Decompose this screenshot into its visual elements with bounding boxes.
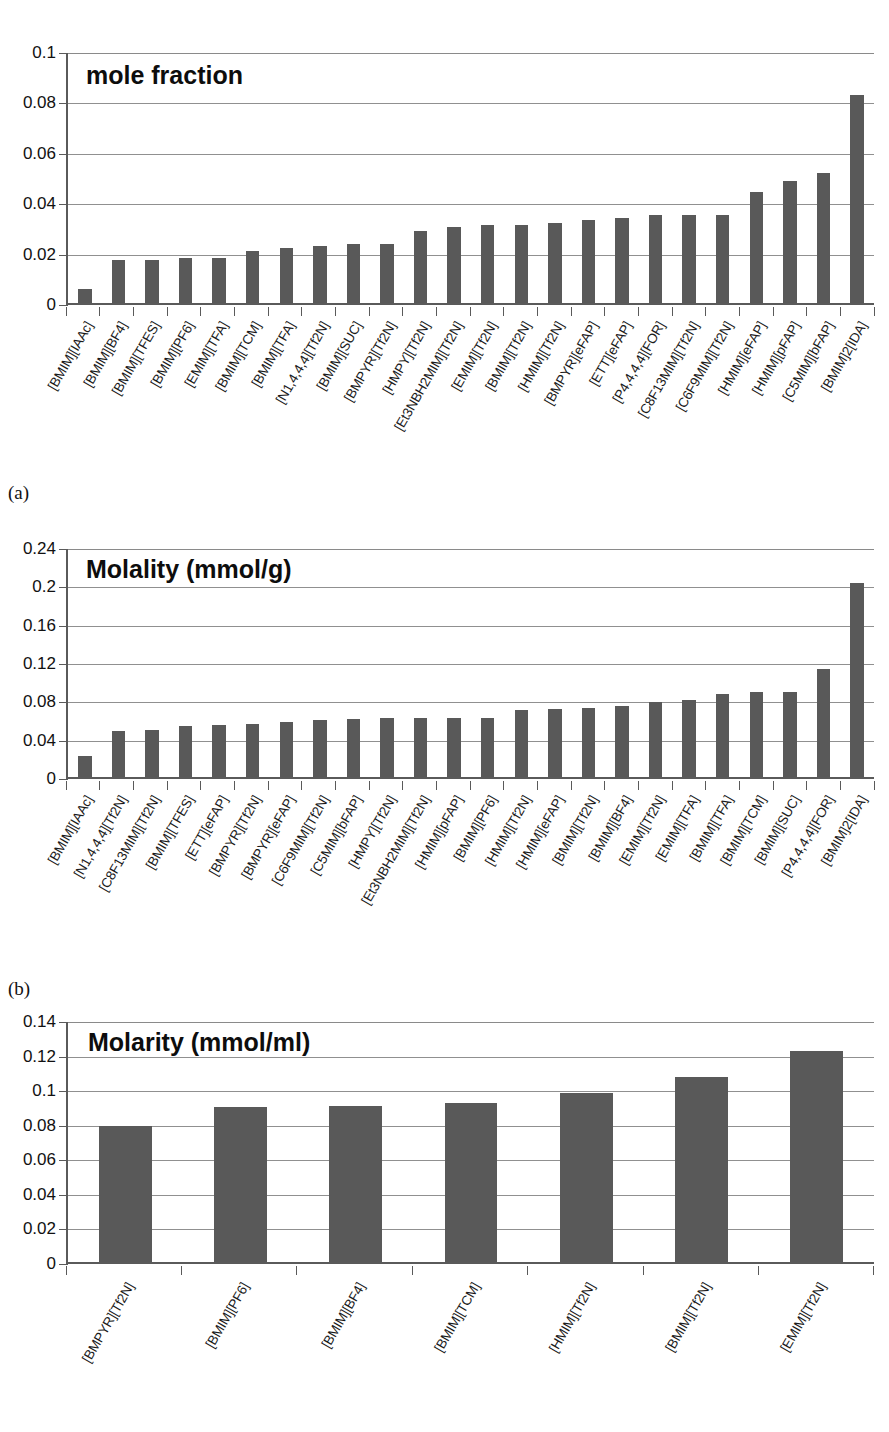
bar: [817, 173, 830, 303]
bar: [615, 706, 628, 777]
figure-page: mole fraction 00.020.040.060.080.1[BMIM]…: [0, 0, 889, 1432]
bar-series: [68, 1022, 874, 1262]
bar-slot: [740, 549, 774, 777]
chart-b-figure: (a) Molality (mmol/g) 00.040.080.120.160…: [0, 470, 889, 960]
chart-a-figure: mole fraction 00.020.040.060.080.1[BMIM]…: [0, 0, 889, 470]
bar-slot: [572, 549, 606, 777]
bar-slot: [102, 53, 136, 303]
bar-slot: [68, 53, 102, 303]
y-axis-tick-label: 0.02: [23, 1219, 56, 1239]
chart-b-plotwrap: Molality (mmol/g) 00.040.080.120.160.20.…: [66, 549, 874, 779]
y-axis-tick: [59, 626, 68, 627]
bar-slot: [370, 53, 404, 303]
bar: [682, 700, 695, 777]
bar: [414, 718, 427, 777]
bar-slot: [505, 53, 539, 303]
panel-letter-a: (a): [8, 482, 29, 504]
y-axis-tick: [59, 204, 68, 205]
y-axis-tick-label: 0: [47, 295, 56, 315]
y-axis-tick-label: 0.2: [32, 577, 56, 597]
bar-slot: [639, 53, 673, 303]
chart-a-plotwrap: mole fraction 00.020.040.060.080.1[BMIM]…: [66, 53, 874, 305]
bar: [329, 1106, 382, 1262]
bar-slot: [135, 53, 169, 303]
bar-slot: [773, 549, 807, 777]
bar: [414, 231, 427, 303]
bar-slot: [605, 549, 639, 777]
bar-slot: [672, 53, 706, 303]
chart-a-title: mole fraction: [86, 61, 243, 90]
bar-slot: [807, 53, 841, 303]
bar-slot: [773, 53, 807, 303]
chart-b-title: Molality (mmol/g): [86, 555, 292, 584]
y-axis-tick-label: 0: [47, 769, 56, 789]
x-axis-label: [BMIM][Tf2N]: [662, 1280, 714, 1354]
y-axis-tick: [59, 1057, 68, 1058]
y-axis-tick: [59, 1091, 68, 1092]
bar-slot: [303, 549, 337, 777]
bar-slot: [572, 53, 606, 303]
bar: [682, 215, 695, 303]
bar: [817, 669, 830, 777]
y-axis-tick-label: 0.08: [23, 93, 56, 113]
bar-slot: [183, 1022, 298, 1262]
bar: [179, 258, 192, 303]
y-axis-tick-label: 0.08: [23, 692, 56, 712]
bar-slot: [413, 1022, 528, 1262]
bar: [675, 1077, 728, 1262]
bar-slot: [298, 1022, 413, 1262]
bar: [145, 260, 158, 303]
bar-slot: [505, 549, 539, 777]
chart-c-plot-area: [66, 1022, 874, 1264]
y-axis-tick-label: 0.02: [23, 245, 56, 265]
bar-slot: [370, 549, 404, 777]
bar-slot: [740, 53, 774, 303]
bar: [649, 702, 662, 777]
bar: [280, 248, 293, 303]
bar: [447, 718, 460, 777]
y-axis-tick-label: 0.24: [23, 539, 56, 559]
y-axis-tick-label: 0.16: [23, 616, 56, 636]
bar: [716, 215, 729, 303]
chart-c-title: Molarity (mmol/ml): [88, 1028, 310, 1057]
bar: [850, 95, 863, 303]
bar-slot: [840, 53, 874, 303]
bar-slot: [437, 53, 471, 303]
x-axis-label: [BMPYR][Tf2N]: [79, 1280, 137, 1365]
bar-slot: [706, 53, 740, 303]
y-axis-tick: [59, 779, 68, 780]
y-axis-tick: [59, 154, 68, 155]
bar: [783, 181, 796, 303]
bar: [649, 215, 662, 303]
bar: [347, 719, 360, 777]
bar-slot: [236, 53, 270, 303]
y-axis-tick: [59, 587, 68, 588]
y-axis-tick: [59, 53, 68, 54]
bar-slot: [840, 549, 874, 777]
x-axis-label: [C8F13MIM][Tf2N]: [96, 793, 163, 894]
chart-a-plot-area: [66, 53, 874, 305]
y-axis-tick-label: 0.04: [23, 1185, 56, 1205]
bar: [313, 720, 326, 777]
bar: [548, 223, 561, 303]
x-axis-label: [EMIM][Tf2N]: [778, 1280, 830, 1354]
bar-slot: [169, 53, 203, 303]
bar-slot: [68, 1022, 183, 1262]
y-axis-tick: [59, 103, 68, 104]
y-axis-tick: [59, 1160, 68, 1161]
bar: [212, 725, 225, 777]
bar: [179, 726, 192, 777]
x-axis-label: [BMIM][PF6]: [203, 1280, 252, 1351]
y-axis-tick-label: 0.04: [23, 731, 56, 751]
y-axis-tick: [59, 741, 68, 742]
bar: [560, 1093, 613, 1262]
bar-slot: [404, 549, 438, 777]
bar: [246, 251, 259, 303]
bar: [783, 692, 796, 777]
bar-slot: [404, 53, 438, 303]
bar: [716, 694, 729, 777]
bar-slot: [639, 549, 673, 777]
bar: [214, 1107, 267, 1262]
y-axis-tick-label: 0.12: [23, 1047, 56, 1067]
bar-series: [68, 53, 874, 303]
